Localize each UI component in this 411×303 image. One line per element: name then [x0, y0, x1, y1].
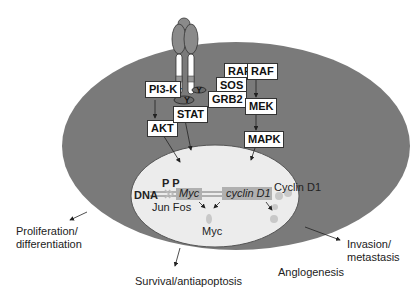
cyclin-gene-label: cyclin D1 — [226, 187, 271, 199]
myc-protein-dot — [206, 214, 212, 224]
outcome-proliferation-line1: Proliferation/ — [16, 225, 78, 237]
myc-protein-label: Myc — [202, 225, 222, 237]
jun-fos-label: Jun Fos — [152, 201, 191, 213]
dna-label: DNA — [134, 189, 158, 201]
protein-grb2: GRB2 — [208, 91, 247, 108]
outcome-invasion-line1: Invasion/ — [347, 238, 391, 250]
arrow-survival — [175, 248, 180, 266]
cyclin-dot — [275, 192, 283, 200]
protein-raf-2: RAF — [247, 63, 278, 80]
cyclin-protein-label: Cyclin D1 — [274, 181, 321, 193]
protein-stat: STAT — [173, 106, 208, 123]
outcome-survival: Survival/antiapoptosis — [135, 275, 242, 287]
phospho-label: P P — [162, 177, 180, 189]
protein-pi3k: PI3-K — [145, 81, 181, 98]
svg-text:Y: Y — [184, 95, 190, 105]
outcome-proliferation: Proliferation/ differentiation — [16, 225, 82, 251]
pathway-diagram: Y Y Y PI3-K AKT STAT RAF RAF SOS GRB2 — [0, 0, 411, 303]
protein-mapk: MAPK — [244, 131, 284, 148]
outcome-invasion-line2: metastasis — [347, 251, 400, 263]
outcome-proliferation-line2: differentiation — [16, 238, 82, 250]
svg-text:Y: Y — [196, 85, 202, 95]
outcome-invasion: Invasion/ metastasis — [347, 238, 400, 264]
outcome-angiogenesis: Anglogenesis — [278, 266, 344, 278]
protein-mek: MEK — [245, 98, 277, 115]
arrow-proliferation — [70, 212, 87, 220]
cyclin-dot — [272, 204, 278, 210]
myc-gene-label: Myc — [179, 187, 199, 199]
cyclin-dot — [270, 215, 278, 223]
